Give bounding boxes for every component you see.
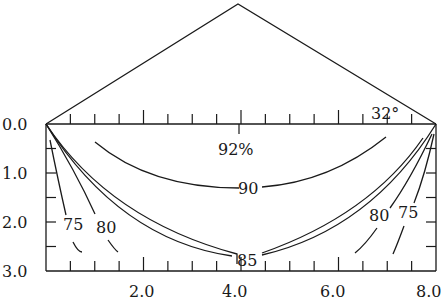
contour-90-left <box>46 124 232 256</box>
x-tick-label: 4.0 <box>222 282 247 301</box>
contour-80-right-lower <box>355 228 377 253</box>
y-tick-label: 3.0 <box>2 262 27 281</box>
contour-label-92: 92% <box>218 140 254 159</box>
y-tick-label: 2.0 <box>2 213 27 232</box>
contour-80-left-lower <box>108 240 118 252</box>
contour-label-75-right: 75 <box>398 203 418 222</box>
top-ticks <box>70 110 411 124</box>
contour-75-left-upper <box>50 140 66 215</box>
contour-90-right <box>262 124 436 255</box>
contour-75-right-lower <box>393 226 404 254</box>
contour-80-left-upper <box>46 124 95 214</box>
contour-label-80-right: 80 <box>369 206 389 225</box>
contour-label-80-left: 80 <box>96 218 116 237</box>
contour-label-85: 85 <box>237 251 257 270</box>
contour-85-left <box>46 124 237 264</box>
contour-label-75-left: 75 <box>63 215 83 234</box>
contour-92-right <box>262 137 386 187</box>
x-tick-label: 6.0 <box>320 282 345 301</box>
contour-label-90: 90 <box>238 179 258 198</box>
x-tick-label: 2.0 <box>129 282 154 301</box>
y-tick-label: 1.0 <box>2 164 27 183</box>
angle-label: 32° <box>371 104 399 123</box>
y-tick-label: 0.0 <box>2 115 27 134</box>
efficiency-contour-diagram: 32° 0.0 1.0 2.0 3.0 2.0 4.0 6.0 8.0 92% … <box>0 0 443 308</box>
contour-75-left-lower <box>73 242 82 252</box>
contour-75-right-upper <box>414 134 434 203</box>
x-tick-label: 8.0 <box>416 282 441 301</box>
